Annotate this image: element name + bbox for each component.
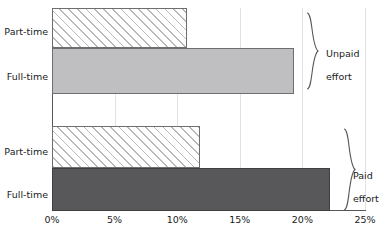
- x-tick-text: 0%: [44, 214, 59, 225]
- brace-unpaid-effort: [306, 12, 319, 90]
- category-label-paid-full-time: Full-time: [0, 190, 48, 200]
- bar-unpaid-full-time: [52, 48, 294, 94]
- x-tick-text: 10%: [167, 214, 188, 225]
- x-tick-text: 25%: [354, 214, 375, 225]
- bar-unpaid-part-time: [52, 8, 187, 48]
- brace-unpaid-icon: [306, 12, 319, 90]
- category-label-text: Part-time: [4, 26, 48, 37]
- x-tick-label-20: 20%: [282, 214, 322, 225]
- bar-paid-part-time: [52, 126, 200, 168]
- group-label-line2: effort: [353, 193, 379, 205]
- group-label-paid-effort: Paid effort: [353, 158, 379, 216]
- group-label-unpaid-effort: Unpaid effort: [326, 36, 360, 94]
- group-label-line2: effort: [326, 71, 360, 83]
- group-label-line1: Paid: [353, 170, 379, 182]
- category-label-paid-part-time: Part-time: [0, 147, 48, 157]
- x-tick-text: 5%: [107, 214, 122, 225]
- x-tick-text: 20%: [292, 214, 313, 225]
- category-label-text: Full-time: [7, 189, 48, 200]
- x-tick-label-5: 5%: [95, 214, 135, 225]
- x-tick-label-0: 0%: [32, 214, 72, 225]
- x-tick-text: 15%: [229, 214, 250, 225]
- x-tick-label-15: 15%: [220, 214, 260, 225]
- x-tick-label-25: 25%: [345, 214, 385, 225]
- category-label-text: Part-time: [4, 146, 48, 157]
- category-label-unpaid-full-time: Full-time: [0, 72, 48, 82]
- bar-paid-full-time: [52, 168, 330, 211]
- group-label-line1: Unpaid: [326, 48, 360, 60]
- x-tick-label-10: 10%: [157, 214, 197, 225]
- bar-chart: Part-time Full-time Part-time Full-time …: [0, 0, 386, 234]
- category-label-text: Full-time: [7, 71, 48, 82]
- category-label-unpaid-part-time: Part-time: [0, 27, 48, 37]
